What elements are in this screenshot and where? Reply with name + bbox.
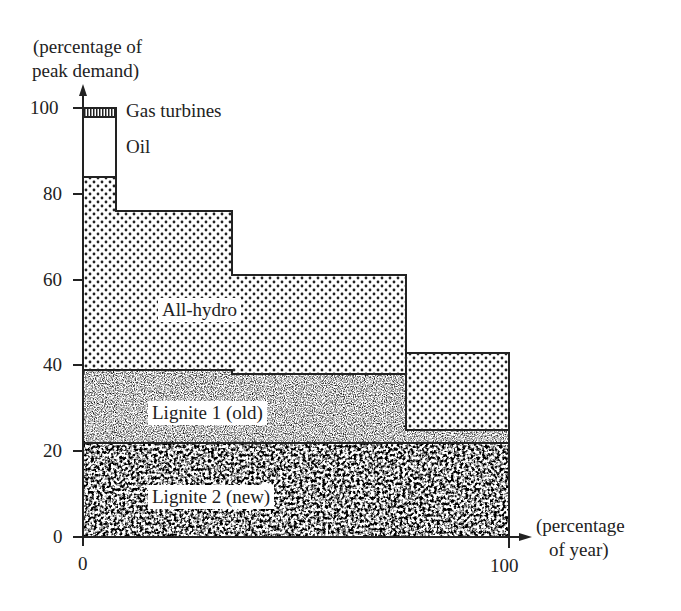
- y-axis-title-line1: (percentage of: [33, 36, 142, 58]
- y-tick-20: 20: [43, 440, 62, 462]
- y-axis-title-line2: peak demand): [32, 60, 139, 82]
- y-tick-100: 100: [30, 97, 59, 119]
- y-tick-40: 40: [43, 354, 62, 376]
- y-tick-80: 80: [43, 183, 62, 205]
- series-gas-turbines: [83, 108, 116, 117]
- x-axis-title-line2: of year): [549, 539, 609, 561]
- label-lignite-1: Lignite 1 (old): [148, 401, 267, 425]
- x-tick-0: 0: [78, 553, 88, 575]
- x-axis: [74, 537, 520, 548]
- label-lignite-2: Lignite 2 (new): [148, 485, 274, 509]
- label-oil: Oil: [126, 136, 150, 158]
- label-gas-turbines: Gas turbines: [126, 100, 222, 122]
- series-oil: [83, 117, 116, 177]
- y-axis-arrow-icon: [79, 84, 87, 96]
- label-all-hydro: All-hydro: [158, 298, 241, 322]
- y-tick-0: 0: [53, 526, 63, 548]
- y-tick-60: 60: [43, 269, 62, 291]
- x-axis-arrow-icon: [519, 533, 532, 541]
- x-axis-title-line1: (percentage: [536, 515, 625, 537]
- x-tick-100: 100: [490, 555, 519, 577]
- series-lignite-2: [83, 443, 509, 537]
- y-axis: [73, 92, 83, 546]
